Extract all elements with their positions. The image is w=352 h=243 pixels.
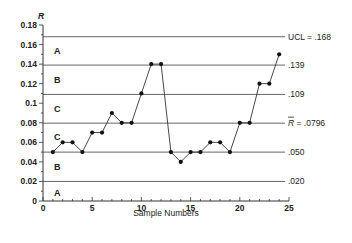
data-point <box>100 130 104 134</box>
y-tick-label: 0.14 <box>20 59 37 69</box>
zone-labels: ABCCBA <box>54 46 61 198</box>
x-tick-label: 5 <box>90 203 95 213</box>
data-point <box>267 82 271 86</box>
data-point <box>238 121 242 125</box>
data-point <box>228 150 232 154</box>
data-point <box>208 140 212 144</box>
data-point <box>277 52 281 56</box>
data-point <box>257 82 261 86</box>
zone-label-c: C <box>54 104 61 114</box>
x-axis-title: Sample Numbers <box>133 208 199 218</box>
control-line-label: UCL = .168 <box>288 32 331 42</box>
data-point <box>51 150 55 154</box>
data-point <box>129 121 133 125</box>
data-point <box>61 140 65 144</box>
y-tick-label: 0.1 <box>25 98 37 108</box>
y-tick-label: 0 <box>32 196 37 206</box>
data-point <box>80 150 84 154</box>
data-point <box>218 140 222 144</box>
zone-label-a: A <box>54 188 61 198</box>
zone-label-a: A <box>54 46 61 56</box>
y-tick-label: 0.18 <box>20 20 37 30</box>
control-line-label: .020 <box>288 176 305 186</box>
x-tick-label: 0 <box>41 203 46 213</box>
control-line-label: .139 <box>288 60 305 70</box>
data-point <box>120 121 124 125</box>
data-point <box>189 150 193 154</box>
y-tick-label: 0.08 <box>20 118 37 128</box>
r-control-chart: 00.020.040.060.080.10.120.140.160.180510… <box>0 0 352 243</box>
control-line-label: .050 <box>288 147 305 157</box>
data-point <box>149 62 153 66</box>
x-tick-label: 25 <box>284 203 294 213</box>
zone-label-b: B <box>54 162 61 172</box>
control-line-label: .109 <box>288 89 305 99</box>
data-series <box>51 52 282 164</box>
data-point <box>198 150 202 154</box>
y-tick-label: 0.16 <box>20 40 37 50</box>
x-tick-label: 20 <box>235 203 245 213</box>
control-lines <box>43 37 285 182</box>
data-point <box>90 130 94 134</box>
y-tick-label: 0.02 <box>20 176 37 186</box>
data-point <box>169 150 173 154</box>
control-line-label: R = .0796 <box>288 118 325 128</box>
axes: 00.020.040.060.080.10.120.140.160.180510… <box>20 20 294 213</box>
data-point <box>159 62 163 66</box>
y-tick-label: 0.12 <box>20 79 37 89</box>
data-point <box>110 111 114 115</box>
zone-label-b: B <box>54 75 61 85</box>
zone-label-c: C <box>54 132 61 142</box>
data-point <box>179 160 183 164</box>
y-tick-label: 0.06 <box>20 137 37 147</box>
control-line-labels: UCL = .168.139.109R = .0796.050.020 <box>288 32 331 187</box>
series-line <box>53 54 279 162</box>
data-point <box>248 121 252 125</box>
y-tick-label: 0.04 <box>20 157 37 167</box>
y-axis-title: R <box>38 11 45 21</box>
data-point <box>139 91 143 95</box>
data-point <box>70 140 74 144</box>
